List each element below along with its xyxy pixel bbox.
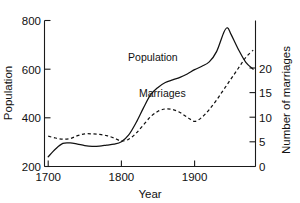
right-tick-label-20: 20 xyxy=(259,63,272,75)
left-tick-label-600: 600 xyxy=(22,64,41,76)
chart-figure: 800 600 400 200 Population 1700 1800 190… xyxy=(0,0,300,203)
x-axis-title: Year xyxy=(138,188,161,200)
x-tick-label-1700: 1700 xyxy=(35,171,61,183)
left-tick-label-400: 400 xyxy=(22,112,41,124)
chart-plot-area: 800 600 400 200 Population 1700 1800 190… xyxy=(0,0,300,203)
right-tick-label-5: 5 xyxy=(259,136,265,148)
right-tick-label-15: 15 xyxy=(259,87,272,99)
series-label-population: Population xyxy=(128,51,178,63)
y2-axis-title: Number of marriages xyxy=(280,46,292,154)
x-tick-label-1800: 1800 xyxy=(109,171,135,183)
right-tick-label-0: 0 xyxy=(259,161,265,173)
left-tick-label-800: 800 xyxy=(22,15,41,27)
series-label-marriages: Marriages xyxy=(139,87,186,99)
right-tick-label-10: 10 xyxy=(259,112,272,124)
y-axis-title: Population xyxy=(2,66,14,120)
x-tick-label-1900: 1900 xyxy=(182,171,208,183)
